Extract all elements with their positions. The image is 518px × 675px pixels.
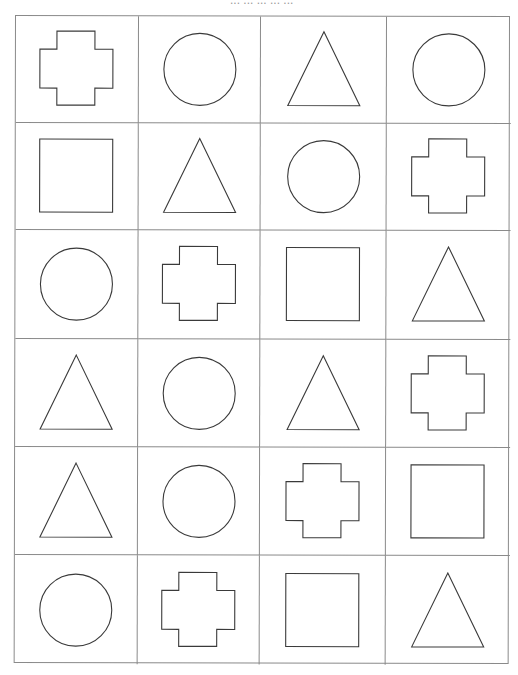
page-header-text: ... ... ... ... ...	[230, 0, 293, 7]
grid-cell	[261, 17, 387, 124]
circle-icon	[36, 570, 116, 650]
grid-cell	[387, 17, 511, 124]
cross-icon	[282, 461, 362, 541]
circle-icon	[409, 30, 489, 110]
circle-icon	[159, 353, 239, 433]
triangle-icon	[36, 461, 116, 541]
cross-icon	[159, 244, 239, 324]
grid-cell	[260, 448, 386, 556]
circle-icon	[283, 137, 363, 217]
triangle-icon	[159, 136, 239, 216]
circle-icon	[158, 461, 238, 541]
circle-icon	[159, 29, 239, 109]
grid-cell	[261, 124, 387, 231]
triangle-icon	[408, 245, 488, 325]
grid-cell	[386, 556, 510, 665]
grid-cell	[139, 16, 261, 123]
square-icon	[408, 461, 488, 541]
grid-cell	[260, 556, 386, 665]
grid-cell	[260, 340, 386, 448]
grid-cell	[386, 340, 510, 448]
square-icon	[283, 245, 363, 325]
cross-icon	[408, 353, 488, 433]
grid-cell	[386, 231, 510, 340]
grid-cell	[16, 123, 139, 230]
grid-cell	[139, 123, 261, 230]
grid-cell	[138, 339, 260, 447]
grid-cell	[386, 448, 510, 556]
grid-cell	[15, 447, 138, 555]
cross-icon	[158, 570, 238, 650]
grid-cell	[16, 16, 139, 123]
square-icon	[282, 570, 362, 650]
triangle-icon	[408, 570, 488, 650]
grid-cell	[138, 555, 260, 664]
grid-cell	[15, 555, 138, 664]
grid-cell	[387, 124, 511, 231]
triangle-icon	[283, 30, 363, 110]
grid-cell	[15, 230, 138, 339]
grid-cell	[138, 230, 260, 339]
circle-icon	[36, 244, 116, 324]
grid-cell	[138, 447, 260, 555]
triangle-icon	[36, 353, 116, 433]
grid-cell	[260, 231, 386, 340]
shape-grid	[14, 15, 510, 664]
triangle-icon	[283, 353, 363, 433]
grid-cell	[15, 339, 138, 447]
square-icon	[37, 136, 117, 216]
cross-icon	[37, 29, 117, 109]
cross-icon	[409, 137, 489, 217]
